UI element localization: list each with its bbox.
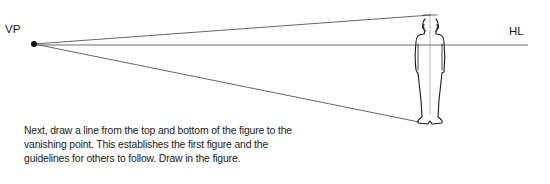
instruction-caption: Next, draw a line from the top and botto… [24, 124, 292, 167]
top-guideline [34, 15, 431, 44]
vanishing-point-label: VP [5, 24, 20, 36]
horizon-line-label: HL [509, 26, 524, 38]
bottom-guideline [34, 44, 419, 122]
vanishing-point-dot [31, 41, 37, 47]
human-figure [415, 15, 445, 124]
